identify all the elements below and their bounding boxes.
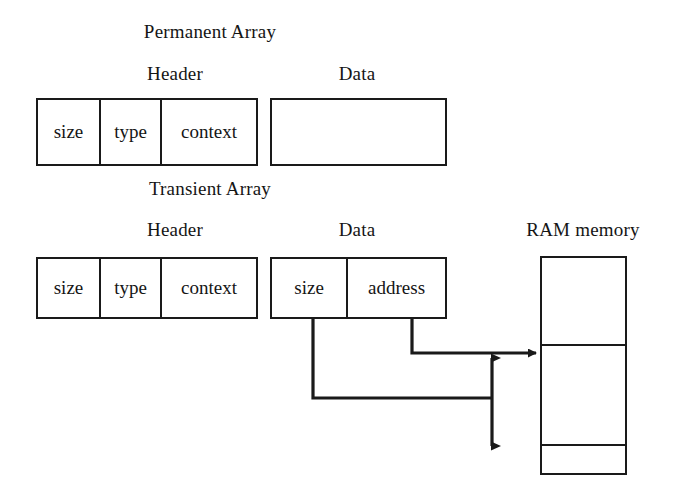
- size-span-wire: [313, 319, 492, 398]
- connector-wires: [0, 0, 673, 494]
- address-pointer-wire: [412, 319, 536, 353]
- figure-canvas: Permanent Array Header Data size type co…: [0, 0, 673, 494]
